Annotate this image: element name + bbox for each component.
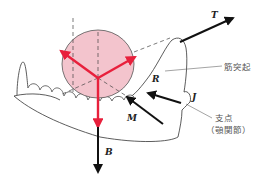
label-B: B [104,147,113,157]
arrow-T [180,18,233,42]
label-M: M [126,113,138,123]
label-tmj: （顎関節） [206,125,251,135]
arrow-J [148,93,181,103]
label-T: T [211,10,219,20]
label-fulcrum: 支点 [215,113,233,123]
label-J: J [190,92,197,102]
label-coronoid-process: 筋突起 [224,62,251,72]
mandible-lever-diagram: T R M B J 筋突起 支点 （顎関節） [0,0,270,182]
label-R: R [151,74,160,84]
